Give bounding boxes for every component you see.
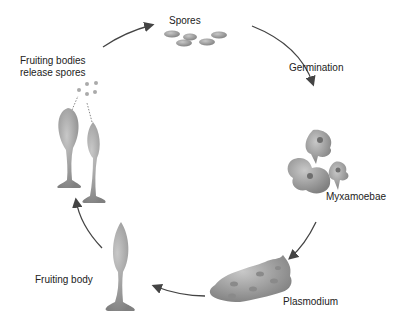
arrow-fruiting-body-to-release bbox=[76, 200, 102, 248]
fruiting-body-illustration bbox=[106, 222, 135, 311]
released-spores bbox=[77, 81, 98, 96]
spores-illustration bbox=[164, 31, 227, 47]
arrow-release-to-spores bbox=[103, 25, 152, 47]
label-fruiting-bodies-release-line2: release spores bbox=[20, 67, 86, 79]
arrow-myxamoebae-to-plasmodium bbox=[290, 222, 316, 258]
label-plasmodium: Plasmodium bbox=[283, 296, 338, 308]
label-fruiting-body: Fruiting body bbox=[35, 274, 93, 286]
label-germination: Germination bbox=[289, 62, 343, 74]
label-fruiting-bodies-release-line1: Fruiting bodies bbox=[20, 55, 86, 67]
fruiting-bodies-illustration bbox=[57, 108, 105, 203]
arrow-plasmodium-to-fruiting-body bbox=[154, 286, 205, 296]
plasmodium-illustration bbox=[210, 255, 292, 302]
arrow-germination bbox=[252, 26, 313, 84]
label-spores: Spores bbox=[169, 15, 201, 27]
label-myxamoebae: Myxamoebae bbox=[326, 191, 386, 203]
